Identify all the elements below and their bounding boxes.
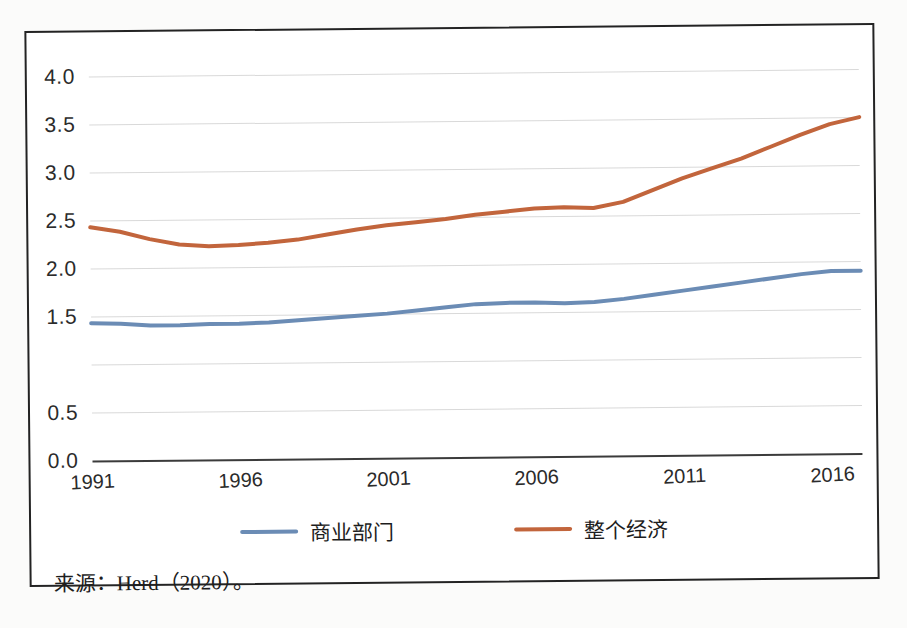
series-lines <box>89 45 863 460</box>
legend-swatch-icon <box>240 529 298 534</box>
x-tick-label: 1996 <box>218 468 264 493</box>
legend-item[interactable]: 整个经济 <box>514 513 668 544</box>
legend-label: 商业部门 <box>310 516 394 547</box>
series-line <box>89 117 860 247</box>
plot-area: 4.03.53.02.52.01.50.50.0 <box>89 45 863 460</box>
x-tick-label: 1991 <box>70 469 116 494</box>
series-line <box>91 271 861 326</box>
legend-swatch-icon <box>514 527 572 532</box>
y-tick-label: 0.0 <box>48 449 79 473</box>
x-axis-tick-labels: 199119962001200620112016 <box>93 457 863 504</box>
x-tick-label: 2006 <box>514 465 560 490</box>
y-tick-label: 2.0 <box>46 257 77 281</box>
x-tick-label: 2011 <box>663 464 707 489</box>
y-tick-label: 2.5 <box>45 209 76 233</box>
y-tick-label: 3.0 <box>45 161 76 185</box>
chart-legend: 商业部门整个经济 <box>31 511 877 549</box>
y-tick-label: 0.5 <box>47 401 78 425</box>
page-background: 4.03.53.02.52.01.50.50.0 199119962001200… <box>0 0 907 628</box>
legend-label: 整个经济 <box>584 513 668 544</box>
y-tick-label: 4.0 <box>44 65 75 89</box>
legend-item[interactable]: 商业部门 <box>240 516 394 547</box>
source-note: 来源：Herd（2020）。 <box>53 565 253 597</box>
x-tick-label: 2001 <box>366 467 412 492</box>
y-tick-label: 1.5 <box>46 305 77 329</box>
x-tick-label: 2016 <box>810 462 856 487</box>
figure-frame: 4.03.53.02.52.01.50.50.0 199119962001200… <box>24 23 879 587</box>
y-tick-label: 3.5 <box>44 113 75 137</box>
figure-inner: 4.03.53.02.52.01.50.50.0 199119962001200… <box>26 25 877 585</box>
